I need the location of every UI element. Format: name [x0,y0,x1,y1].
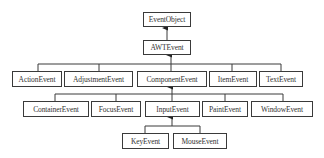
node-label: TextEvent [266,75,296,84]
node-label: ItemEvent [218,75,248,84]
node-componentevent: ComponentEvent [137,71,207,87]
node-itemevent: ItemEvent [209,71,257,87]
node-label: ComponentEvent [146,75,197,84]
node-label: ActionEvent [19,75,56,84]
node-label: AWTEvent [150,43,183,52]
node-eventobject: EventObject [143,12,191,27]
node-windowevent: WindowEvent [251,101,313,117]
node-adjustmentevent: AdjustmentEvent [64,71,133,87]
node-label: FocusEvent [99,105,133,114]
node-inputevent: InputEvent [145,101,200,117]
node-focusevent: FocusEvent [91,101,141,117]
node-label: ContainerEvent [33,105,79,114]
node-textevent: TextEvent [259,71,303,87]
node-paintevent: PaintEvent [202,101,248,117]
node-awtevent: AWTEvent [143,40,191,55]
node-label: PaintEvent [209,105,241,114]
node-label: EventObject [149,15,185,24]
node-containerevent: ContainerEvent [23,101,89,117]
node-mouseevent: MouseEvent [173,133,227,149]
node-label: MouseEvent [182,137,219,146]
node-label: InputEvent [156,105,188,114]
node-actionevent: ActionEvent [12,71,62,87]
node-label: AdjustmentEvent [73,75,124,84]
node-label: WindowEvent [261,105,303,114]
node-keyevent: KeyEvent [122,133,169,149]
node-label: KeyEvent [131,137,160,146]
